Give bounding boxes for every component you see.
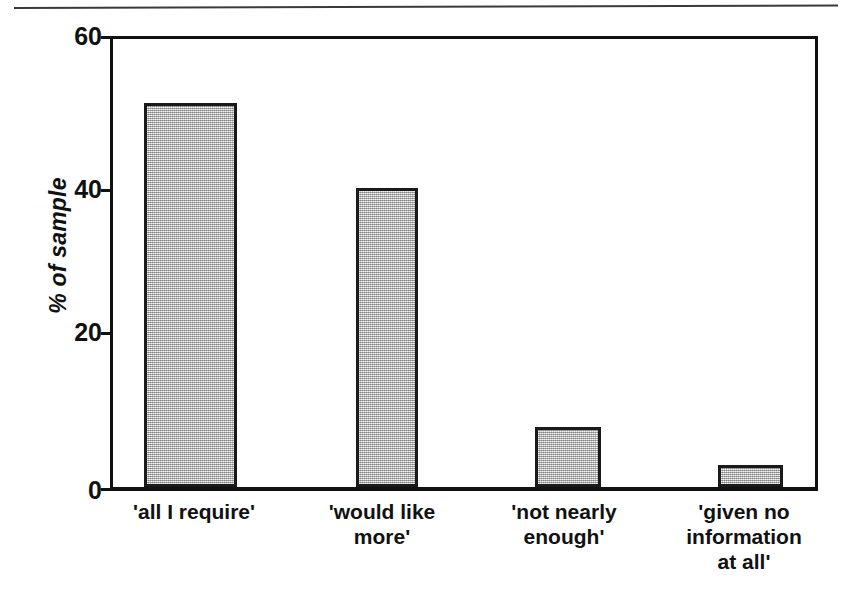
x-label-line: 'given no	[660, 500, 828, 525]
bar-chart-figure: % of sample 60 40 20 0 'all I require' '…	[0, 0, 852, 601]
x-label-line: 'all I require'	[110, 500, 278, 525]
x-label-line: more'	[302, 525, 462, 550]
x-label-line: information	[660, 525, 828, 550]
x-label-would-like-more: 'would like more'	[302, 500, 462, 550]
x-label-line: enough'	[488, 525, 640, 550]
y-tick-label-20: 20	[40, 320, 102, 345]
y-tick-label-0: 0	[40, 478, 102, 503]
plot-area	[110, 36, 818, 491]
x-label-all-i-require: 'all I require'	[110, 500, 278, 525]
bar-all-i-require[interactable]	[144, 103, 237, 488]
y-tick-label-60: 60	[40, 24, 102, 49]
y-tick-label-40: 40	[40, 177, 102, 202]
bar-given-no-information-at-all[interactable]	[718, 465, 783, 487]
x-label-not-nearly-enough: 'not nearly enough'	[488, 500, 640, 550]
x-label-line: 'would like	[302, 500, 462, 525]
x-label-line: at all'	[660, 550, 828, 575]
x-axis-category-labels: 'all I require' 'would like more' 'not n…	[110, 500, 818, 598]
x-label-line: 'not nearly	[488, 500, 640, 525]
bar-would-like-more[interactable]	[356, 188, 418, 487]
y-axis-tick-labels: 60 40 20 0	[30, 0, 102, 601]
x-label-given-no-information-at-all: 'given no information at all'	[660, 500, 828, 574]
bar-not-nearly-enough[interactable]	[535, 427, 601, 487]
